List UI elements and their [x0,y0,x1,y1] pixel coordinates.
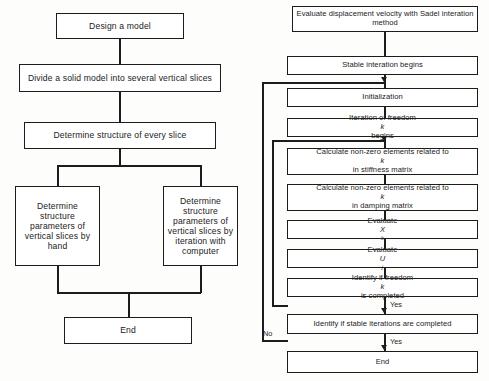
node-determine-structure[interactable]: Determine structure of every slice [24,122,216,149]
edge-determine-stem [119,149,121,166]
node-identify-stable-completed[interactable]: Identify if stable iterations are comple… [287,314,478,334]
node-calc-damping[interactable]: Calculate non-zero elements related to k… [287,184,478,211]
node-identify-stable-label: Identify if stable iterations are comple… [313,320,451,329]
outer-loop-bottom [262,340,288,342]
inner-loop-top [272,140,384,142]
node-stable-iteration-begins[interactable]: Stable interation begins [287,56,478,75]
edge-by-hand-down [57,266,59,293]
node-stable-iteration-begins-label: Stable interation begins [342,61,423,70]
node-identify-freedom-text: Identify if freedom k is completed [352,274,413,301]
outer-loop-top [262,82,384,84]
node-end-left-label: End [120,325,136,335]
node-calc-damping-text: Calculate non-zero elements related to k… [316,184,448,211]
edge-determine-split-bar [57,165,201,167]
node-calc-stiffness-text: Calculate non-zero elements related to k… [316,148,448,175]
node-initialization[interactable]: Initialization [287,88,478,107]
edge-split-to-by-computer [200,165,202,186]
damping-post: in damping matrix [316,202,448,211]
identify-freedom-post: is completed [352,292,413,301]
node-determine-by-hand-label: Determine structure parameters of vertic… [19,201,96,252]
node-evaluate-u[interactable]: Evaluate Uj [287,249,478,268]
node-evaluate-displacement[interactable]: Evaluate displacement velocity with Sade… [292,6,478,32]
node-divide-solid-model-label: Divide a solid model into several vertic… [28,73,212,83]
edge-divide-to-determine [119,92,121,122]
node-evaluate-x[interactable]: Evaluate Xk [287,220,478,239]
node-design-model[interactable]: Design a model [56,13,184,39]
arrow-stable-yes [381,345,387,350]
node-determine-by-computer[interactable]: Determine structure parameters of vertic… [163,186,238,266]
evaluate-u-sub: j [368,264,398,270]
node-identify-freedom-completed[interactable]: Identify if freedom k is completed [287,278,478,297]
node-end-right-label: End [376,358,390,367]
outer-loop-left [262,82,264,341]
node-determine-by-hand[interactable]: Determine structure parameters of vertic… [15,186,100,266]
edge-merge-to-end [128,292,130,317]
inner-loop-bottom [272,305,288,307]
node-divide-solid-model[interactable]: Divide a solid model into several vertic… [19,64,221,92]
node-evaluate-u-text: Evaluate Uj [368,246,398,270]
edge-displacement-to-stable [384,32,386,56]
edge-label-freedom-yes: Yes [390,300,402,309]
node-end-right[interactable]: End [287,351,478,373]
evaluate-x-sub: k [368,235,398,241]
node-iteration-freedom-begins[interactable]: Iteration of freedom k begins [287,118,478,137]
edge-label-stable-yes: Yes [390,337,402,346]
node-end-left[interactable]: End [64,317,192,344]
evaluate-u-var: U [368,255,398,264]
inner-loop-left [272,140,274,306]
arrow-freedom-yes [381,308,387,313]
edge-design-to-divide [119,39,121,64]
edge-split-to-by-hand [57,165,59,186]
node-evaluate-displacement-label: Evaluate displacement velocity with Sade… [296,10,474,28]
node-determine-structure-label: Determine structure of every slice [53,130,186,140]
node-evaluate-x-text: Evaluate Xk [368,217,398,241]
edge-by-computer-down [200,266,202,293]
flowchart-canvas: Design a model Divide a solid model into… [0,0,489,381]
node-design-model-label: Design a model [89,21,151,31]
evaluate-x-var: X [368,226,398,235]
node-calc-stiffness[interactable]: Calculate non-zero elements related to k… [287,148,478,175]
node-initialization-label: Initialization [362,93,402,102]
node-determine-by-computer-label: Determine structure parameters of vertic… [167,196,234,257]
edge-label-stable-no: No [263,329,272,338]
stiffness-post: in stiffness matrix [316,166,448,175]
